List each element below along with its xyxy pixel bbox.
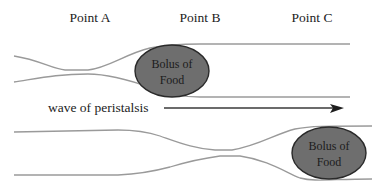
top-bolus-label-line1: Bolus of xyxy=(151,57,192,71)
wave-arrow: wave of peristalsis xyxy=(48,100,344,115)
bottom-bolus-label-line2: Food xyxy=(317,155,342,169)
point-a-label: Point A xyxy=(70,10,111,25)
top-bolus-label-line2: Food xyxy=(160,73,185,87)
bottom-bolus-label-line1: Bolus of xyxy=(308,139,349,153)
peristalsis-diagram: Point A Point B Point C Bolus of Food wa… xyxy=(0,0,384,196)
diagram-canvas: Point A Point B Point C Bolus of Food wa… xyxy=(0,0,384,196)
top-bolus-of-food xyxy=(135,45,209,97)
bottom-tube: Bolus of Food xyxy=(14,126,372,180)
wave-of-peristalsis-label: wave of peristalsis xyxy=(48,100,148,115)
point-b-label: Point B xyxy=(180,10,221,25)
top-tube: Bolus of Food xyxy=(14,44,350,97)
bottom-bolus-of-food xyxy=(292,127,366,179)
point-c-label: Point C xyxy=(292,10,333,25)
